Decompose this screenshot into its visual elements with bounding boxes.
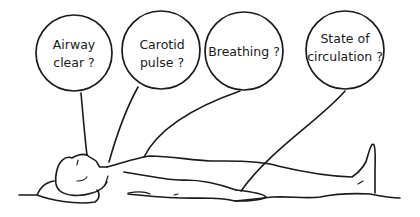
ear [77, 177, 87, 181]
callout-text-line: Breathing ? [208, 44, 280, 59]
leader-line-airway [81, 93, 87, 155]
face-profile [87, 155, 107, 167]
callout-text-line: Airway [53, 37, 96, 52]
eye [77, 160, 78, 165]
supine-person [19, 144, 400, 203]
leader-line-breathing [144, 91, 240, 157]
head [56, 154, 107, 195]
arm [124, 172, 236, 190]
leader-line-carotid [109, 87, 138, 162]
assessment-diagram: Airway clear ? Carotid pulse ? Breathing… [0, 0, 420, 217]
callout-carotid: Carotid pulse ? [122, 11, 200, 89]
callout-circulation: State of circulation ? [306, 11, 384, 89]
callout-text-line: Carotid [139, 37, 184, 52]
ankle-mark [358, 181, 363, 184]
callout-text-line: pulse ? [140, 55, 184, 70]
callout-breathing: Breathing ? [205, 12, 283, 90]
callout-text-line: State of [320, 31, 370, 46]
callout-airway: Airway clear ? [36, 15, 112, 91]
pillow [19, 181, 99, 203]
callout-text-line: clear ? [53, 55, 94, 70]
diagram-canvas: Airway clear ? Carotid pulse ? Breathing… [0, 0, 420, 217]
callout-bubble [36, 15, 112, 91]
callout-text-line: circulation ? [307, 49, 383, 64]
